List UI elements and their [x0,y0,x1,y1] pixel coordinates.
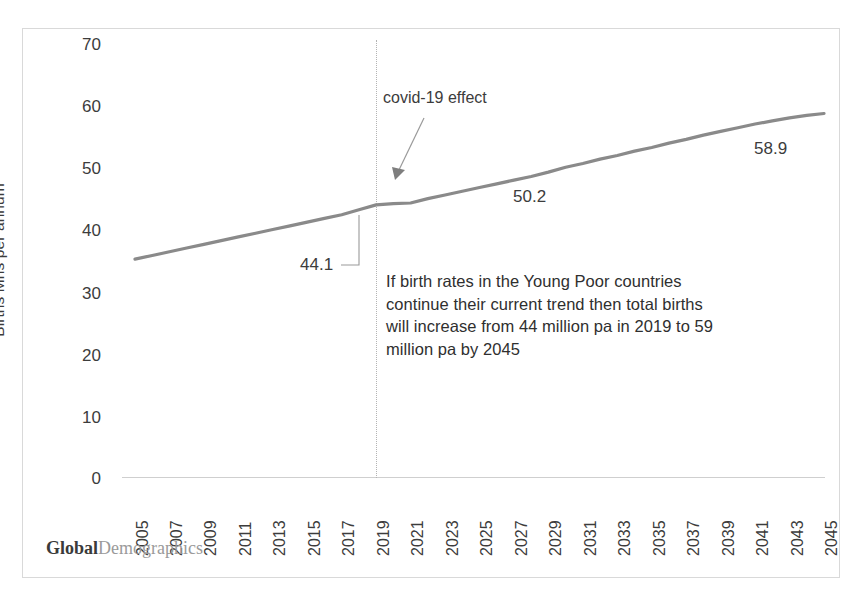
data-label-50-2: 50.2 [513,187,546,207]
data-label-58-9: 58.9 [754,139,787,159]
callout-text: If birth rates in the Young Poor countri… [386,270,716,360]
global-demographics-logo: GlobalDemographics [46,538,203,559]
data-label-44-1: 44.1 [300,255,333,275]
births-trend-line [135,114,824,260]
logo-bold-text: Global [46,538,98,558]
chart-canvas: Births Mns per annum 70 60 50 40 30 20 1… [0,0,864,604]
covid-arrow-line [398,118,424,172]
logo-light-text: Demographics [98,538,203,558]
chart-page: Births Mns per annum 70 60 50 40 30 20 1… [0,0,864,604]
covid-19-effect-label: covid-19 effect [383,89,487,107]
covid-arrow-head [392,167,405,180]
leader-line-44-1 [341,215,359,265]
